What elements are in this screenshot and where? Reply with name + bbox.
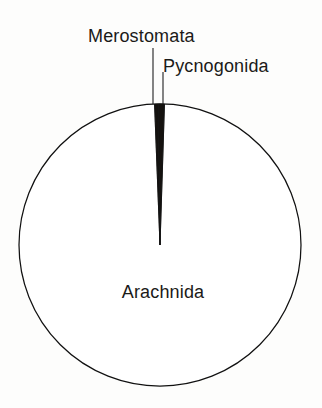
slice-label-pycnogonida: Pycnogonida xyxy=(163,57,269,75)
slice-label-arachnida: Arachnida xyxy=(0,283,322,301)
pie-chart-graphic xyxy=(0,0,322,408)
pie-chart-figure: Merostomata Pycnogonida Arachnida xyxy=(0,0,322,408)
slice-label-merostomata: Merostomata xyxy=(88,27,195,45)
